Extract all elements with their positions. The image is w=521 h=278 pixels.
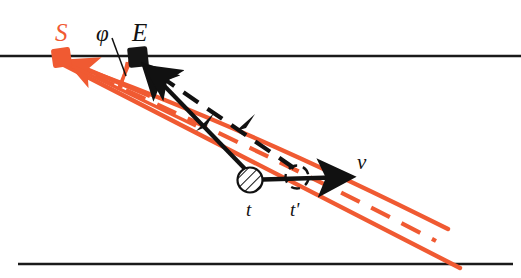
source-square-marker: [51, 47, 72, 68]
diagram-svg: [0, 0, 521, 278]
emitter-square-marker: [127, 46, 149, 68]
solid-observed-beam: [145, 66, 248, 172]
time-two-label: t': [290, 200, 299, 219]
angle-label: φ: [96, 22, 109, 45]
figure-canvas: S φ E t t' v: [0, 0, 521, 278]
dashed-beam-mid-arrowhead: [236, 114, 255, 131]
time-one-label: t: [246, 200, 251, 219]
light-ray-bundle: [64, 62, 460, 268]
emitter-label: E: [132, 20, 147, 45]
incoming-ray-secondary: [72, 66, 196, 126]
lower-light-ray: [64, 65, 460, 268]
velocity-label: v: [357, 152, 366, 173]
hatched-particle-circle: [238, 168, 263, 193]
source-label: S: [55, 20, 68, 45]
